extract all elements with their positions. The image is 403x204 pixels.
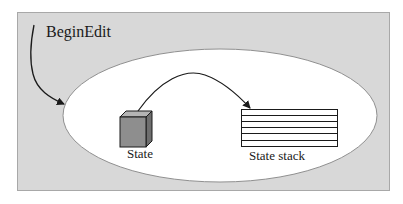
state-stack-label: State stack	[249, 148, 305, 163]
diagram-canvas: BeginEdit State State stack	[0, 0, 403, 204]
state-label: State	[127, 146, 153, 161]
begin-edit-label: BeginEdit	[46, 23, 111, 41]
state-stack-icon	[242, 110, 338, 147]
state-cube-icon	[120, 111, 152, 147]
